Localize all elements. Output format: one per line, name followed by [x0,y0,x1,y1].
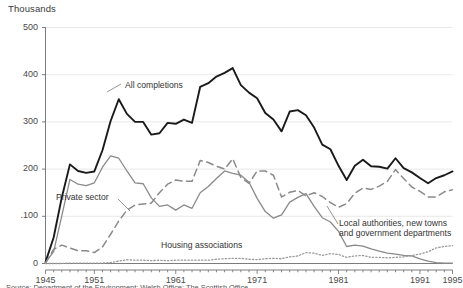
series-label-local-authorities: Local authorities, new towns and governm… [339,218,457,238]
y-tick-label-400: 400 [4,69,38,79]
y-tick-label-500: 500 [4,22,38,32]
series-line-local-authorities-new-towns-and-government-departments [46,156,453,263]
x-tick-label-1971: 1971 [247,275,267,285]
y-tick-label-0: 0 [4,258,38,268]
x-tick-label-1981: 1981 [329,275,349,285]
leader-lines [107,84,338,224]
series-label-housing-associations: Housing associations [161,240,242,250]
series-label-private-sector: Private sector [56,192,109,202]
y-tick-label-100: .100 [4,210,38,220]
series-line-housing-associations [46,246,453,264]
source-note: Source: Department of the Environment; W… [6,283,248,288]
x-tick-label-1991: 1991 [410,275,430,285]
y-tick-label-200: 200 [4,163,38,173]
series-line-private-sector [46,159,453,263]
series-label-all-completions: All completions [125,80,183,90]
x-tick-label-1995: 1995 [442,275,462,285]
y-tick-label-300: 300 [4,116,38,126]
